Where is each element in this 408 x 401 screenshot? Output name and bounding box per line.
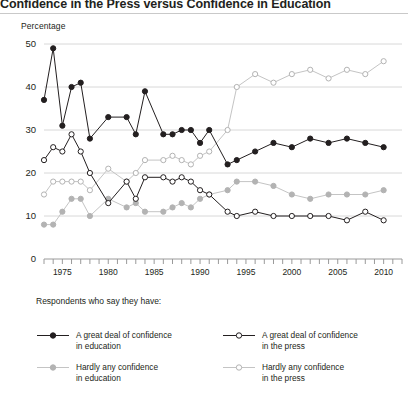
y-axis-tick-label: 30 xyxy=(25,124,36,135)
x-axis-tick-label: 1990 xyxy=(191,267,210,277)
series-data-point xyxy=(253,179,258,184)
legend-label-line1: Hardly any confidence xyxy=(262,362,344,373)
series-line xyxy=(44,48,384,164)
series-data-point xyxy=(197,188,202,193)
y-axis-tick-label: 40 xyxy=(25,81,36,92)
series-data-point xyxy=(225,162,230,167)
series-data-point xyxy=(179,175,184,180)
series-data-point xyxy=(161,132,166,137)
series-data-point xyxy=(87,188,92,193)
series-data-point xyxy=(124,115,129,120)
legend-label-line2: in education xyxy=(76,373,158,384)
series-data-point xyxy=(344,67,349,72)
series-data-point xyxy=(170,132,175,137)
series-data-point xyxy=(381,218,386,223)
y-axis-tick-label: 0 xyxy=(31,253,36,264)
series-data-point xyxy=(51,222,56,227)
legend-label-line2: in the press xyxy=(262,373,344,384)
legend-item-hardly-any-press: Hardly any confidence in the press xyxy=(262,362,344,383)
legend-key-great-deal-education xyxy=(36,330,70,341)
series-data-point xyxy=(326,140,331,145)
series-data-point xyxy=(106,201,111,206)
series-data-point xyxy=(142,158,147,163)
series-data-point xyxy=(87,213,92,218)
series-data-point xyxy=(381,59,386,64)
series-data-point xyxy=(289,72,294,77)
series-data-point xyxy=(289,192,294,197)
series-data-point xyxy=(124,205,129,210)
series-data-point xyxy=(60,149,65,154)
series-data-point xyxy=(225,127,230,132)
series-data-point xyxy=(51,145,56,150)
series-data-point xyxy=(344,192,349,197)
series-data-point xyxy=(234,84,239,89)
x-axis-tick-label: 1975 xyxy=(53,267,72,277)
chart-legend: Respondents who say they have: A great d… xyxy=(0,292,408,401)
series-data-point xyxy=(133,170,138,175)
legend-label-line1: Hardly any confidence xyxy=(76,362,158,373)
legend-item-hardly-any-education: Hardly any confidence in education xyxy=(76,362,158,383)
series-data-point xyxy=(87,170,92,175)
series-data-point xyxy=(124,179,129,184)
x-axis-tick-label: 1995 xyxy=(236,267,255,277)
series-data-point xyxy=(381,188,386,193)
series-data-point xyxy=(41,97,46,102)
series-data-point xyxy=(78,149,83,154)
series-data-point xyxy=(78,196,83,201)
series-line xyxy=(44,182,384,225)
series-data-point xyxy=(207,127,212,132)
series-data-point xyxy=(179,158,184,163)
series-data-point xyxy=(60,123,65,128)
series-data-point xyxy=(197,153,202,158)
series-data-point xyxy=(78,179,83,184)
legend-key-hardly-any-press xyxy=(222,362,256,373)
legend-label-line2: in education xyxy=(76,341,172,352)
series-data-point xyxy=(225,209,230,214)
series-data-point xyxy=(344,136,349,141)
series-data-point xyxy=(326,192,331,197)
legend-item-great-deal-education: A great deal of confidence in education xyxy=(76,330,172,351)
series-data-point xyxy=(207,149,212,154)
series-data-point xyxy=(69,84,74,89)
series-data-point xyxy=(170,153,175,158)
series-data-point xyxy=(69,132,74,137)
y-axis-tick-label: 20 xyxy=(25,167,36,178)
series-data-point xyxy=(225,188,230,193)
series-data-point xyxy=(234,213,239,218)
line-chart: 0102030405019751980198519901995200020052… xyxy=(0,0,408,300)
series-data-point xyxy=(51,179,56,184)
x-axis-tick-label: 1980 xyxy=(99,267,118,277)
series-data-point xyxy=(142,175,147,180)
series-data-point xyxy=(234,158,239,163)
series-data-point xyxy=(60,179,65,184)
legend-item-great-deal-press: A great deal of confidence in the press xyxy=(262,330,358,351)
series-data-point xyxy=(197,140,202,145)
series-data-point xyxy=(161,175,166,180)
series-data-point xyxy=(69,196,74,201)
series-data-point xyxy=(197,196,202,201)
series-data-point xyxy=(41,192,46,197)
series-data-point xyxy=(253,149,258,154)
series-data-point xyxy=(161,158,166,163)
series-data-point xyxy=(326,76,331,81)
series-data-point xyxy=(170,205,175,210)
series-data-point xyxy=(363,192,368,197)
series-data-point xyxy=(69,179,74,184)
y-axis-tick-label: 50 xyxy=(25,38,36,49)
series-data-point xyxy=(188,162,193,167)
series-data-point xyxy=(308,67,313,72)
legend-label-line1: A great deal of confidence xyxy=(262,330,358,341)
series-data-point xyxy=(106,115,111,120)
series-data-point xyxy=(253,209,258,214)
x-axis-tick-label: 2005 xyxy=(328,267,347,277)
series-data-point xyxy=(170,179,175,184)
series-data-point xyxy=(381,145,386,150)
legend-key-hardly-any-education xyxy=(36,362,70,373)
series-data-point xyxy=(308,213,313,218)
series-data-point xyxy=(271,140,276,145)
series-data-point xyxy=(363,72,368,77)
series-data-point xyxy=(51,46,56,51)
series-data-point xyxy=(344,218,349,223)
series-data-point xyxy=(207,192,212,197)
series-data-point xyxy=(188,179,193,184)
